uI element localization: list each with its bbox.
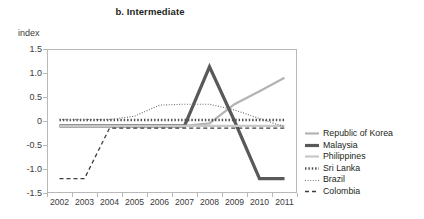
legend-label: Republic of Korea — [323, 128, 393, 140]
x-tick-mark — [72, 193, 73, 197]
chart-legend: Republic of KoreaMalaysiaPhilippinesSri … — [305, 128, 423, 198]
series-line — [60, 104, 285, 127]
legend-item[interactable]: Philippines — [305, 151, 423, 163]
x-tick-mark — [247, 193, 248, 197]
legend-item[interactable]: Malaysia — [305, 140, 423, 152]
x-tick-mark — [47, 193, 48, 197]
x-tick-label: 2011 — [270, 197, 300, 207]
x-tick-mark — [222, 193, 223, 197]
legend-label: Colombia — [323, 186, 360, 198]
legend-line-icon — [305, 140, 319, 151]
legend-line-icon — [305, 151, 319, 162]
legend-label: Brazil — [323, 174, 345, 186]
y-tick-label: 0.5 — [2, 92, 42, 102]
legend-item[interactable]: Sri Lanka — [305, 163, 423, 175]
chart-container: b. Intermediate index 1.51.00.50-0.5-1.0… — [0, 0, 424, 219]
x-tick-mark — [197, 193, 198, 197]
legend-line-icon — [305, 186, 319, 197]
y-tick-label: -1.0 — [2, 164, 42, 174]
legend-item[interactable]: Colombia — [305, 186, 423, 198]
x-tick-mark — [122, 193, 123, 197]
x-tick-mark — [97, 193, 98, 197]
y-tick-label: 0 — [2, 116, 42, 126]
legend-line-icon — [305, 163, 319, 174]
x-tick-mark — [297, 193, 298, 197]
y-tick-label: 1.5 — [2, 44, 42, 54]
x-tick-mark — [272, 193, 273, 197]
y-tick-label: -1.5 — [2, 188, 42, 198]
legend-line-icon — [305, 128, 319, 139]
y-tick-label: -0.5 — [2, 140, 42, 150]
y-tick-label: 1.0 — [2, 68, 42, 78]
legend-label: Sri Lanka — [323, 163, 360, 175]
series-line — [60, 128, 285, 178]
y-axis-unit-label: index — [18, 28, 40, 38]
legend-item[interactable]: Brazil — [305, 174, 423, 186]
plot-lines — [47, 49, 297, 193]
legend-item[interactable]: Republic of Korea — [305, 128, 423, 140]
x-tick-mark — [172, 193, 173, 197]
legend-label: Malaysia — [323, 140, 358, 152]
series-line — [60, 78, 285, 126]
legend-label: Philippines — [323, 151, 366, 163]
x-tick-mark — [147, 193, 148, 197]
chart-title: b. Intermediate — [0, 6, 300, 17]
legend-line-icon — [305, 175, 319, 186]
